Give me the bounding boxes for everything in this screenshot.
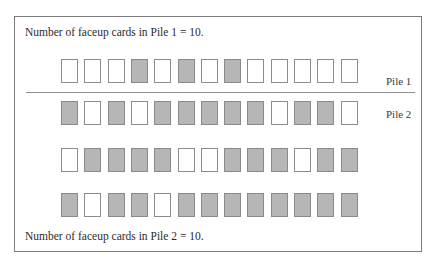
faceup-card [84, 59, 101, 83]
facedown-card [247, 101, 264, 125]
facedown-card [154, 101, 171, 125]
facedown-card [154, 148, 171, 172]
facedown-card [247, 193, 264, 217]
faceup-card [154, 193, 171, 217]
facedown-card [294, 193, 311, 217]
facedown-card [108, 101, 125, 125]
facedown-card [341, 193, 358, 217]
faceup-card [341, 101, 358, 125]
facedown-card [178, 193, 195, 217]
faceup-card [317, 59, 334, 83]
facedown-card [108, 193, 125, 217]
pile-divider-line [26, 92, 415, 93]
faceup-card [247, 59, 264, 83]
faceup-card [341, 59, 358, 83]
facedown-card [271, 193, 288, 217]
faceup-card [84, 193, 101, 217]
facedown-card [247, 148, 264, 172]
facedown-card [84, 148, 101, 172]
faceup-card [271, 101, 288, 125]
facedown-card [224, 59, 241, 83]
facedown-card [317, 148, 334, 172]
facedown-card [201, 193, 218, 217]
pile-2-label: Pile 2 [386, 108, 411, 120]
pile-1-label: Pile 1 [386, 75, 411, 87]
pile1-faceup-count-caption: Number of faceup cards in Pile 1 = 10. [25, 26, 204, 38]
facedown-card [131, 148, 148, 172]
facedown-card [131, 59, 148, 83]
facedown-card [61, 193, 78, 217]
pile2-faceup-count-caption: Number of faceup cards in Pile 2 = 10. [25, 230, 204, 242]
faceup-card [61, 148, 78, 172]
facedown-card [178, 101, 195, 125]
faceup-card [154, 59, 171, 83]
faceup-card [108, 59, 125, 83]
facedown-card [108, 148, 125, 172]
faceup-card [201, 59, 218, 83]
facedown-card [224, 101, 241, 125]
faceup-card [131, 101, 148, 125]
facedown-card [294, 101, 311, 125]
faceup-card [61, 59, 78, 83]
faceup-card [84, 101, 101, 125]
facedown-card [224, 193, 241, 217]
facedown-card [61, 101, 78, 125]
facedown-card [341, 148, 358, 172]
facedown-card [317, 101, 334, 125]
facedown-card [201, 101, 218, 125]
facedown-card [178, 59, 195, 83]
facedown-card [271, 148, 288, 172]
faceup-card [294, 148, 311, 172]
faceup-card [294, 59, 311, 83]
facedown-card [317, 193, 334, 217]
faceup-card [271, 59, 288, 83]
faceup-card [178, 148, 195, 172]
faceup-card [201, 148, 218, 172]
facedown-card [224, 148, 241, 172]
facedown-card [131, 193, 148, 217]
